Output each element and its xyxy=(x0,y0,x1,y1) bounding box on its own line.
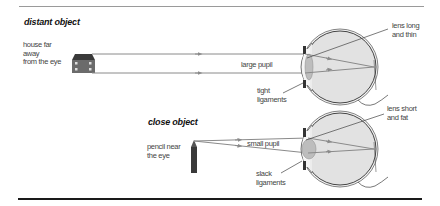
eye-near-focus xyxy=(301,111,388,187)
eye-distant-focus xyxy=(301,29,388,105)
pencil-icon xyxy=(191,140,197,173)
ligament-pointer-line-2 xyxy=(281,161,302,173)
ligament-pointer-line xyxy=(283,83,303,93)
near-light-rays xyxy=(194,138,308,153)
eye-diagram-graphics xyxy=(0,0,440,206)
distant-light-rays xyxy=(92,54,305,73)
house-icon xyxy=(72,54,95,73)
